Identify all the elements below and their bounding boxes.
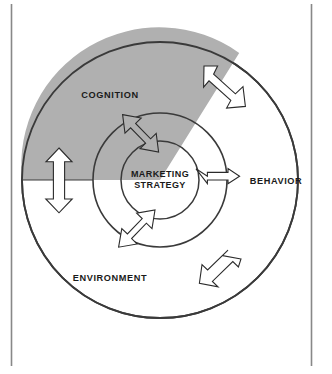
marketing-strategy-diagram: COGNITION BEHAVIOR ENVIRONMENT MARKETING… [0, 0, 332, 374]
arrow-core-to-environment [119, 210, 155, 247]
label-cognition: COGNITION [81, 90, 138, 100]
arrow-environment-to-behavior [199, 250, 241, 287]
label-behavior: BEHAVIOR [250, 176, 303, 186]
label-environment: ENVIRONMENT [73, 273, 148, 283]
arrow-core-to-behavior [196, 169, 240, 184]
figure-root: COGNITION BEHAVIOR ENVIRONMENT MARKETING… [0, 0, 332, 374]
label-marketing-strategy-line1: MARKETING [131, 169, 189, 179]
label-marketing-strategy-line2: STRATEGY [134, 180, 186, 190]
